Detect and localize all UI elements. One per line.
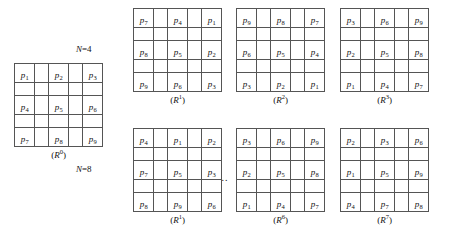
grid-cell-empty <box>305 148 325 161</box>
grid-row: p1p4p7 <box>237 193 325 212</box>
grid-cell-empty <box>83 83 103 96</box>
grid-cell-empty <box>291 193 305 212</box>
cell-label: p9 <box>415 168 423 177</box>
n8-rotation-6: p3p6p9p2p5p8p1p4p7 <box>236 128 325 212</box>
grid-cell-p5: p5 <box>271 41 291 60</box>
cell-label: p4 <box>21 103 29 112</box>
n8-rotation-7-block: p2p3p6p1p5p9p4p7p8(R7) <box>340 128 429 225</box>
rotation-figure: N=4 N=8 ... p1p2p3p4p5p6p7p8p9(R0)p7p4p1… <box>0 0 452 250</box>
grid-cell-p9: p9 <box>83 128 103 147</box>
grid-cell-empty <box>188 9 202 28</box>
cell-label: p1 <box>243 200 251 209</box>
grid-cell-empty <box>154 129 168 148</box>
grid-cell-empty <box>154 161 168 180</box>
grid-cell-empty <box>395 60 409 73</box>
grid-cell-empty <box>35 64 49 83</box>
grid-cell-empty <box>409 180 429 193</box>
grid-cell-p3: p3 <box>237 73 257 92</box>
grid-cell-empty <box>291 73 305 92</box>
grid-cell-p9: p9 <box>409 9 429 28</box>
grid-cell-empty <box>154 60 168 73</box>
grid-cell-empty <box>257 129 271 148</box>
grid-cell-empty <box>375 60 395 73</box>
grid-row <box>15 83 103 96</box>
grid-cell-empty <box>375 28 395 41</box>
grid-cell-empty <box>361 161 375 180</box>
grid-cell-p6: p6 <box>83 96 103 115</box>
n8-rotation-6-caption: (R6) <box>236 216 325 225</box>
grid-cell-p9: p9 <box>409 161 429 180</box>
grid-cell-empty <box>257 28 271 41</box>
grid-cell-p4: p4 <box>375 73 395 92</box>
grid-cell-empty <box>69 96 83 115</box>
n-label-8: N=8 <box>76 165 92 174</box>
grid-cell-empty <box>291 148 305 161</box>
grid-cell-p3: p3 <box>375 129 395 148</box>
n4-rotation-2: p9p8p7p6p5p4p3p2p1 <box>236 8 325 92</box>
grid-cell-empty <box>202 180 222 193</box>
grid-cell-empty <box>271 60 291 73</box>
grid-row: p3p2p1 <box>237 73 325 92</box>
grid-row: p8p9p6 <box>134 193 222 212</box>
grid-cell-empty <box>375 180 395 193</box>
n4-rotation-3-block: p3p6p9p2p5p8p1p4p7(R3) <box>340 8 429 105</box>
grid-row: p7p5p3 <box>134 161 222 180</box>
grid-cell-p6: p6 <box>168 73 188 92</box>
grid-cell-empty <box>69 115 83 128</box>
grid-cell-empty <box>188 28 202 41</box>
grid-cell-empty <box>361 129 375 148</box>
grid-cell-empty <box>15 83 35 96</box>
cell-label: p3 <box>89 71 97 80</box>
grid-cell-empty <box>341 148 361 161</box>
grid-cell-p4: p4 <box>341 193 361 212</box>
grid-cell-empty <box>188 161 202 180</box>
grid-cell-empty <box>134 28 154 41</box>
grid-cell-p6: p6 <box>375 9 395 28</box>
grid-row <box>237 28 325 41</box>
cell-label: p7 <box>21 135 29 144</box>
grid-row <box>134 180 222 193</box>
grid-row: p7p8p9 <box>15 128 103 147</box>
n4-rotation-2-block: p9p8p7p6p5p4p3p2p1(R2) <box>236 8 325 105</box>
grid-cell-empty <box>188 180 202 193</box>
grid-cell-empty <box>188 148 202 161</box>
cell-label: p8 <box>140 200 148 209</box>
cell-label: p4 <box>277 200 285 209</box>
grid-cell-empty <box>361 9 375 28</box>
grid-row <box>341 60 429 73</box>
cell-label: p3 <box>208 168 216 177</box>
grid-cell-p1: p1 <box>202 9 222 28</box>
grid-cell-empty <box>35 96 49 115</box>
grid-cell-empty <box>49 115 69 128</box>
grid-cell-empty <box>395 161 409 180</box>
grid-cell-p8: p8 <box>134 193 154 212</box>
grid-cell-empty <box>257 73 271 92</box>
grid-cell-empty <box>168 148 188 161</box>
grid-cell-empty <box>271 148 291 161</box>
grid-cell-empty <box>257 180 271 193</box>
cell-label: p1 <box>208 16 216 25</box>
cell-label: p1 <box>311 80 319 89</box>
grid-cell-p9: p9 <box>237 9 257 28</box>
grid-cell-p3: p3 <box>237 129 257 148</box>
grid-cell-empty <box>188 129 202 148</box>
base-grid-block: p1p2p3p4p5p6p7p8p9(R0) <box>14 63 103 160</box>
grid-cell-p8: p8 <box>409 193 429 212</box>
cell-label: p7 <box>415 80 423 89</box>
grid-cell-p3: p3 <box>83 64 103 83</box>
grid-cell-empty <box>237 28 257 41</box>
cell-label: p7 <box>140 16 148 25</box>
grid-cell-empty <box>188 41 202 60</box>
grid-row: p9p6p3 <box>134 73 222 92</box>
base-grid: p1p2p3p4p5p6p7p8p9 <box>14 63 103 147</box>
grid-cell-empty <box>361 60 375 73</box>
cell-label: p7 <box>381 200 389 209</box>
grid-cell-empty <box>409 148 429 161</box>
grid-cell-p5: p5 <box>375 161 395 180</box>
cell-label: p6 <box>208 200 216 209</box>
cell-label: p9 <box>415 16 423 25</box>
grid-cell-empty <box>395 28 409 41</box>
grid-cell-empty <box>154 28 168 41</box>
cell-label: p7 <box>140 168 148 177</box>
grid-cell-empty <box>291 41 305 60</box>
